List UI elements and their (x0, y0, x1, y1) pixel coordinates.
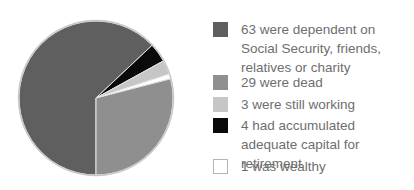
legend-label: 1 was wealthy (241, 157, 401, 176)
legend-item-wealthy: 1 was wealthy (213, 159, 401, 176)
legend-swatch (213, 159, 228, 174)
legend-label: 29 were dead (241, 73, 401, 92)
legend-swatch (213, 97, 228, 112)
legend-label: 3 were still working (241, 95, 401, 114)
legend-swatch (213, 22, 228, 37)
legend-item-dependent: 63 were dependent on Social Security, fr… (213, 22, 401, 77)
legend-swatch (213, 118, 228, 133)
pie-chart (0, 0, 200, 190)
legend-item-dead: 29 were dead (213, 75, 401, 92)
legend-label: 63 were dependent on Social Security, fr… (241, 20, 401, 77)
legend-item-working: 3 were still working (213, 97, 401, 114)
legend-swatch (213, 75, 228, 90)
